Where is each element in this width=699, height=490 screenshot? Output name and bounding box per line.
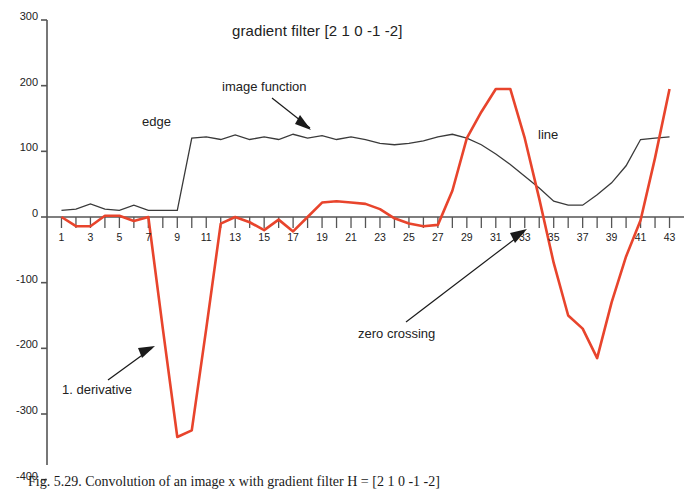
x-tick-label: 11 bbox=[201, 231, 212, 243]
x-tick-label: 19 bbox=[316, 231, 328, 243]
y-axis-ticks bbox=[41, 20, 47, 480]
y-tick-label: -300 bbox=[0, 404, 38, 416]
annotation-edge: edge bbox=[142, 114, 171, 129]
x-tick-label: 41 bbox=[635, 231, 647, 243]
x-tick-label: 17 bbox=[287, 231, 299, 243]
x-tick-label: 1 bbox=[59, 231, 65, 243]
y-tick-label: 0 bbox=[0, 207, 38, 219]
x-tick-label: 5 bbox=[116, 231, 122, 243]
y-tick-label: 200 bbox=[0, 76, 38, 88]
y-tick-label: 300 bbox=[0, 10, 38, 22]
x-tick-label: 3 bbox=[88, 231, 94, 243]
x-tick-label: 33 bbox=[519, 231, 531, 243]
annotation-first-derivative: 1. derivative bbox=[62, 382, 132, 397]
annotation-zero-crossing: zero crossing bbox=[358, 326, 435, 341]
figure-caption: Fig. 5.29. Convolution of an image x wit… bbox=[28, 474, 440, 490]
annotation-image-function: image function bbox=[222, 79, 307, 94]
x-tick-label: 13 bbox=[229, 231, 241, 243]
x-tick-label: 23 bbox=[374, 231, 386, 243]
x-tick-label: 39 bbox=[606, 231, 618, 243]
x-tick-label: 43 bbox=[664, 231, 676, 243]
y-tick-label: 100 bbox=[0, 141, 38, 153]
x-axis-ticks bbox=[61, 217, 669, 228]
x-tick-label: 31 bbox=[490, 231, 502, 243]
series-image-function bbox=[61, 134, 669, 210]
chart-canvas bbox=[0, 0, 699, 490]
image-function-arrow-head bbox=[295, 115, 311, 130]
x-tick-label: 35 bbox=[548, 231, 560, 243]
series-first-derivative bbox=[61, 89, 669, 437]
x-tick-label: 15 bbox=[258, 231, 270, 243]
y-tick-label: -100 bbox=[0, 273, 38, 285]
x-tick-label: 9 bbox=[174, 231, 180, 243]
figure-container: gradient filter [2 1 0 -1 -2] edge image… bbox=[0, 0, 699, 490]
x-tick-label: 25 bbox=[403, 231, 415, 243]
y-tick-label: -200 bbox=[0, 338, 38, 350]
zero-crossing-arrow-line bbox=[406, 232, 524, 322]
chart-title: gradient filter [2 1 0 -1 -2] bbox=[232, 22, 403, 39]
x-tick-label: 7 bbox=[145, 231, 151, 243]
x-tick-label: 27 bbox=[432, 231, 444, 243]
x-tick-label: 37 bbox=[577, 231, 589, 243]
x-tick-label: 21 bbox=[345, 231, 357, 243]
x-tick-label: 29 bbox=[461, 231, 473, 243]
annotation-line: line bbox=[538, 127, 558, 142]
